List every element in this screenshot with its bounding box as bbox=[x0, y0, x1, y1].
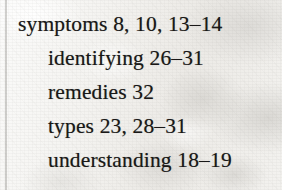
index-subentry-remedies: remedies 32 bbox=[48, 82, 154, 104]
index-subentry-identifying: identifying 26–31 bbox=[48, 48, 204, 70]
index-entry-main: symptoms 8, 10, 13–14 bbox=[18, 14, 222, 36]
index-entry-block: symptoms 8, 10, 13–14 identifying 26–31 … bbox=[0, 0, 282, 190]
index-subentry-understanding: understanding 18–19 bbox=[48, 150, 232, 172]
scanned-page: symptoms 8, 10, 13–14 identifying 26–31 … bbox=[0, 0, 282, 190]
index-subentry-types: types 23, 28–31 bbox=[48, 116, 187, 138]
